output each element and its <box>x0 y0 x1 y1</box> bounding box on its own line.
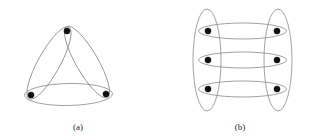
hyperedge-row-bottom <box>199 81 287 97</box>
caption-b: (b) <box>235 122 246 132</box>
vertex-bottom-right <box>103 91 109 97</box>
vertex-bottom-left <box>28 92 34 98</box>
panel-b: (b) <box>193 9 292 132</box>
vertex-left-bottom <box>205 86 211 92</box>
vertex-left-top <box>205 28 211 34</box>
hyperedge-bottom <box>24 83 112 107</box>
hyperedge-row-middle <box>199 52 287 68</box>
figure-container: (a) (b) <box>0 0 319 140</box>
caption-a: (a) <box>73 122 83 132</box>
vertex-right-middle <box>274 57 280 63</box>
hyperedge-top-left <box>20 22 79 104</box>
panel-a-vertices <box>28 28 109 98</box>
vertex-right-bottom <box>274 86 280 92</box>
vertex-right-top <box>274 28 280 34</box>
panel-a: (a) <box>20 21 118 132</box>
hypergraph-figure: (a) (b) <box>0 0 319 140</box>
vertex-left-middle <box>205 57 211 63</box>
vertex-top <box>64 28 70 34</box>
hyperedge-row-top <box>199 23 287 39</box>
